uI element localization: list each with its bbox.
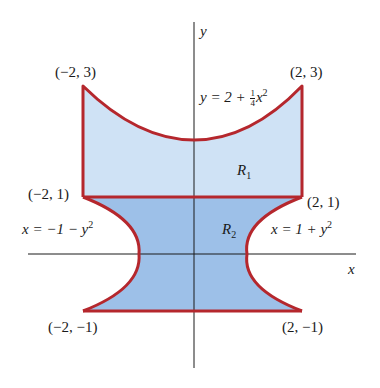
point-bottom-right: (2, −1) (282, 320, 323, 335)
equation-top-curve: y = 2 + 14x2 (200, 88, 268, 108)
equation-left-curve: x = −1 − y2 (22, 220, 93, 237)
y-axis-label: y (200, 24, 207, 39)
equation-left-exponent: 2 (88, 219, 93, 230)
fraction: 14 (250, 89, 255, 108)
point-bottom-left: (−2, −1) (48, 320, 97, 335)
x-axis-label: x (348, 262, 355, 277)
region-r2-subscript: 2 (231, 229, 236, 240)
equation-right-exponent: 2 (327, 219, 332, 230)
point-mid-left: (−2, 1) (28, 187, 69, 202)
equation-top-lhs: y = 2 + (200, 89, 249, 105)
equation-right-curve: x = 1 + y2 (271, 220, 332, 237)
point-top-right: (2, 3) (290, 65, 323, 80)
region-r1-subscript: 1 (246, 170, 251, 181)
equation-left-text: x = −1 − y (22, 221, 88, 237)
equation-top-exponent: 2 (263, 87, 268, 98)
region-r2-letter: R (222, 221, 231, 237)
region-r1-label: R1 (237, 163, 251, 181)
equation-right-text: x = 1 + y (271, 221, 327, 237)
region-r1-letter: R (237, 162, 246, 178)
fraction-denominator: 4 (250, 99, 255, 108)
region-r1-fill (83, 86, 302, 197)
region-r2-label: R2 (222, 222, 236, 240)
point-top-left: (−2, 3) (55, 65, 96, 80)
point-mid-right: (2, 1) (307, 195, 340, 210)
equation-top-var: x (256, 89, 263, 105)
